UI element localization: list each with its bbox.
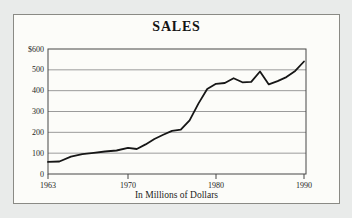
x-axis-tick-label: 1970 xyxy=(120,181,136,190)
y-axis-tick-label: 400 xyxy=(32,86,44,95)
y-axis-tick-label: $600 xyxy=(28,45,44,54)
x-axis-tick-label: 1990 xyxy=(296,181,312,190)
sales-line-chart: $60050040030020010001963197019801990 xyxy=(14,15,341,193)
y-axis-tick-label: 200 xyxy=(32,128,44,137)
x-axis-tick-label: 1980 xyxy=(208,181,224,190)
chart-svg: $60050040030020010001963197019801990 xyxy=(14,15,341,193)
page: { "page": { "background": "#e9ebea" }, "… xyxy=(0,0,352,218)
x-axis-tick-label: 1963 xyxy=(40,181,56,190)
chart-caption: In Millions of Dollars xyxy=(14,190,339,200)
y-axis-tick-label: 100 xyxy=(32,149,44,158)
y-axis-tick-label: 300 xyxy=(32,107,44,116)
y-axis-tick-label: 500 xyxy=(32,65,44,74)
chart-card: SALES $600500400300200100019631970198019… xyxy=(13,14,340,204)
y-axis-tick-label: 0 xyxy=(40,170,44,179)
